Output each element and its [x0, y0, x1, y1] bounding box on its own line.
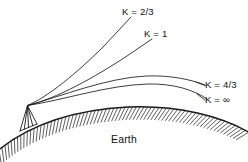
ray-propagation-diagram: K = 2/3 K = 1 K = 4/3 K = ∞ Earth [0, 0, 248, 162]
earth-label: Earth [111, 134, 137, 145]
label-k-one: K = 1 [144, 28, 167, 39]
label-k-infinity: K = ∞ [205, 94, 230, 105]
label-k-four-thirds: K = 4/3 [205, 79, 237, 90]
label-k-two-thirds: K = 2/3 [122, 6, 154, 17]
